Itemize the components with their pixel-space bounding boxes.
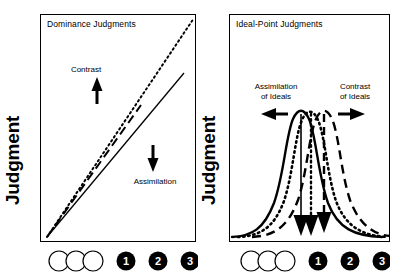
- scale-filled-circle-1-label: 1: [315, 255, 321, 267]
- scale-filled-circle-2-label: 2: [155, 255, 161, 267]
- annotation-contrast: Contrast: [56, 65, 116, 75]
- assimilation-down-arrow-icon: [148, 145, 159, 172]
- scale-filled-circle-3: 3: [181, 252, 199, 271]
- annotation-assimilation-of-ideals-line1: Assimilation: [236, 82, 316, 92]
- ideal-point-plot-svg: [230, 15, 391, 243]
- left-shift-arrow-icon: [261, 108, 288, 120]
- annotation-assimilation: Assimilation: [119, 177, 191, 187]
- assimilation-solid-line: [47, 73, 184, 237]
- scale-markers-dominance: 1 2 3: [48, 250, 198, 272]
- scale-open-circle-3: [83, 251, 103, 271]
- scale-filled-circle-1-label: 1: [123, 255, 129, 267]
- scale-markers-ideal-point: 1 2 3: [240, 250, 390, 272]
- annotation-assimilation-of-ideals-line2: of Ideals: [236, 92, 316, 102]
- contrast-up-arrow-icon: [92, 77, 103, 104]
- scale-filled-circle-3: 3: [373, 252, 391, 271]
- figure-container: Dominance Judgments Contrast Assimilatio…: [0, 0, 398, 278]
- scale-filled-circle-2: 2: [149, 252, 168, 271]
- annotation-contrast-of-ideals: Contrast of Ideals: [322, 82, 388, 101]
- scale-filled-circle-2: 2: [341, 252, 360, 271]
- scale-filled-circle-2-label: 2: [347, 255, 353, 267]
- y-axis-label-dominance: Judgment: [2, 116, 24, 205]
- scale-filled-circle-1: 1: [309, 252, 328, 271]
- right-shift-arrow-icon: [338, 108, 365, 120]
- scale-filled-circle-3-label: 3: [379, 255, 385, 267]
- neutral-dotted-line: [47, 18, 194, 237]
- annotation-contrast-of-ideals-line1: Contrast: [322, 82, 388, 92]
- scale-filled-circle-1: 1: [117, 252, 136, 271]
- dominance-plot-svg: [41, 15, 197, 243]
- panel-ideal-point-judgments: Ideal-Point Judgments: [229, 14, 390, 242]
- scale-filled-circle-3-label: 3: [187, 255, 193, 267]
- panel-dominance-judgments: Dominance Judgments Contrast Assimilatio…: [40, 14, 196, 242]
- annotation-assimilation-of-ideals: Assimilation of Ideals: [236, 82, 316, 101]
- annotation-contrast-of-ideals-line2: of Ideals: [322, 92, 388, 102]
- scale-open-circle-3: [275, 251, 295, 271]
- dotted-peak-down-arrow-icon: [304, 114, 319, 236]
- y-axis-label-ideal-point: Judgment: [198, 116, 220, 205]
